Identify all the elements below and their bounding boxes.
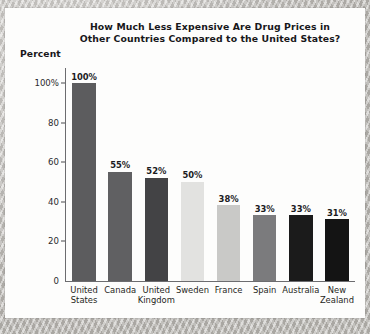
y-tick-label: 20 bbox=[15, 236, 59, 246]
chart-card: How Much Less Expensive Are Drug Prices … bbox=[5, 8, 365, 318]
y-axis-title: Percent bbox=[20, 48, 61, 59]
page-background: How Much Less Expensive Are Drug Prices … bbox=[0, 0, 370, 334]
bar-value-label: 38% bbox=[219, 194, 239, 204]
bar: 100% bbox=[72, 83, 96, 281]
x-axis-line bbox=[65, 281, 355, 282]
bar-value-label: 31% bbox=[327, 208, 347, 218]
bar: 52% bbox=[145, 178, 169, 281]
bar: 31% bbox=[325, 219, 349, 280]
bar: 38% bbox=[217, 205, 241, 280]
bar-value-label: 33% bbox=[255, 204, 275, 214]
y-tick-label: 100% bbox=[15, 78, 59, 88]
bar: 55% bbox=[108, 172, 132, 281]
y-tick-label: 0 bbox=[15, 276, 59, 286]
bar-series: 100%55%52%50%38%33%33%31% bbox=[66, 8, 355, 281]
bar-value-label: 52% bbox=[146, 166, 166, 176]
bar: 33% bbox=[253, 215, 277, 280]
x-tick-label-line: Zealand bbox=[316, 295, 358, 305]
bar-value-label: 100% bbox=[71, 72, 97, 82]
y-tick-label: 40 bbox=[15, 197, 59, 207]
x-tick-label-line: New bbox=[316, 285, 358, 295]
y-tick-label: 80 bbox=[15, 118, 59, 128]
plot-area: Percent 020406080100% 100%55%52%50%38%33… bbox=[5, 8, 365, 318]
y-tick-label: 60 bbox=[15, 157, 59, 167]
bar-value-label: 55% bbox=[110, 160, 130, 170]
bar: 50% bbox=[181, 182, 205, 281]
x-axis-tick-labels: UnitedStatesCanadaUnitedKingdomSwedenFra… bbox=[66, 285, 355, 315]
bar-value-label: 33% bbox=[291, 204, 311, 214]
x-tick-label-line: Kingdom bbox=[135, 295, 177, 305]
bar: 33% bbox=[289, 215, 313, 280]
x-tick-label: NewZealand bbox=[316, 285, 358, 306]
bar-value-label: 50% bbox=[182, 170, 202, 180]
x-tick-label-line: States bbox=[63, 295, 105, 305]
